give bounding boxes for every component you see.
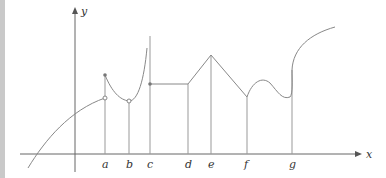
filled-point-c bbox=[148, 82, 152, 86]
tick-label-a: a bbox=[102, 158, 109, 171]
tick-label-g: g bbox=[289, 158, 296, 171]
x-axis-label: x bbox=[366, 148, 373, 161]
curve-segment-f-to-g bbox=[247, 70, 292, 98]
y-axis-label: y bbox=[80, 5, 88, 18]
curve-segment-right bbox=[292, 27, 335, 70]
tick-label-c: c bbox=[147, 158, 153, 171]
curve-segment-c-to-f bbox=[150, 55, 247, 97]
tick-label-b: b bbox=[126, 158, 133, 171]
y-axis-arrow-icon bbox=[72, 7, 78, 14]
tick-label-e: e bbox=[208, 158, 215, 171]
x-axis-arrow-icon bbox=[355, 151, 362, 157]
open-point-b bbox=[127, 99, 131, 103]
tick-label-d: d bbox=[185, 158, 192, 171]
function-graph: x y a b c d e f g bbox=[0, 0, 386, 178]
open-point-a bbox=[103, 96, 107, 100]
curve-segment-a-to-c bbox=[105, 48, 147, 101]
curve-segment-left bbox=[28, 98, 105, 168]
tick-label-f: f bbox=[243, 158, 250, 171]
filled-point-a bbox=[103, 73, 107, 77]
